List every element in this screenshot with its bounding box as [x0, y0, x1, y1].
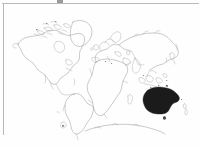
region-southern-islands: [57, 112, 66, 128]
region-australia-highlighted: [143, 85, 179, 120]
region-antarctica: [85, 124, 165, 135]
region-new-zealand: [181, 99, 187, 115]
region-south-america: [63, 94, 93, 140]
region-north-america: [13, 21, 85, 95]
region-southeast-asia: [139, 71, 167, 88]
world-map-figure: [0, 0, 199, 147]
region-greenland: [70, 21, 92, 47]
region-africa: [87, 59, 132, 118]
world-map-svg: [0, 0, 199, 147]
